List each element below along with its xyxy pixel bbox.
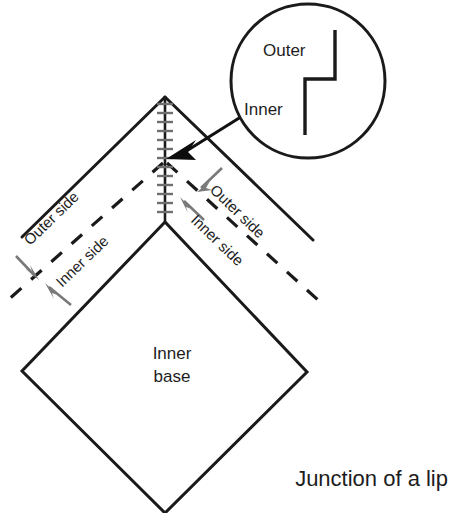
- inset-outer-label: Outer: [263, 41, 306, 60]
- inner-base-label-line1: Inner: [153, 344, 192, 363]
- inner-base-label: Inner base: [153, 344, 192, 386]
- figure-caption: Junction of a lip: [295, 466, 448, 491]
- diagram-canvas: Outer side Inner side Outer side Inner s…: [0, 0, 454, 513]
- inner-base-label-line2: base: [154, 367, 191, 386]
- lip-junction-diagram: Outer side Inner side Outer side Inner s…: [0, 0, 454, 513]
- left-outer-side-arrow: [16, 256, 39, 280]
- side-labels: Outer side Inner side Outer side Inner s…: [20, 181, 268, 290]
- label-left-outer-side: Outer side: [20, 188, 82, 248]
- label-left-inner-side: Inner side: [52, 232, 111, 290]
- inset-circle-outline: [231, 4, 385, 158]
- inset-inner-label: Inner: [244, 100, 283, 119]
- central-seam: [157, 97, 173, 222]
- right-fold-dashed-line: [167, 163, 318, 300]
- magnified-detail-circle: Outer Inner: [231, 4, 385, 158]
